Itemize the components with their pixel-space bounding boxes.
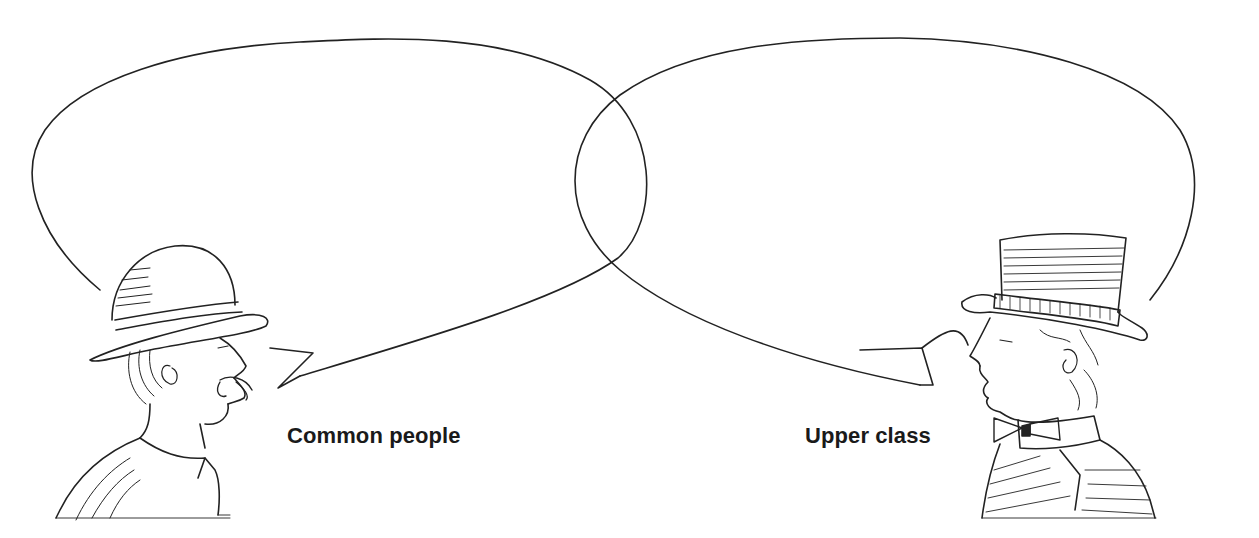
illustration-canvas — [0, 0, 1259, 538]
speech-bubble-diagram: Common people Upper class — [0, 0, 1259, 538]
left-speech-bubble — [32, 39, 646, 388]
upper-class-man-figure — [962, 234, 1156, 518]
upper-class-label: Upper class — [805, 423, 931, 449]
common-man-figure — [56, 246, 268, 520]
common-people-label: Common people — [287, 423, 461, 449]
right-speech-bubble — [575, 38, 1194, 385]
